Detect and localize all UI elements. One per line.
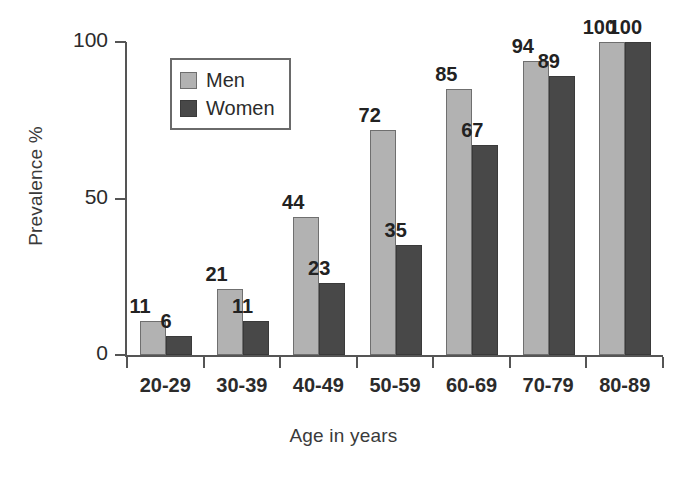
bar-value-label: 67 [449, 119, 495, 142]
y-tick [115, 198, 126, 200]
bar-group: 9489 [510, 42, 587, 355]
x-axis-line [125, 355, 663, 357]
legend-item: Women [180, 94, 275, 122]
bar-value-label: 72 [347, 104, 393, 127]
bar-value-label: 6 [143, 310, 189, 333]
bar-women [319, 283, 345, 355]
bar-women [549, 76, 575, 355]
legend-label: Men [206, 69, 245, 92]
bar-value-label: 21 [194, 263, 240, 286]
legend-swatch-icon [180, 100, 197, 117]
bar-women [396, 245, 422, 355]
x-tick [279, 357, 281, 368]
x-tick [203, 357, 205, 368]
chart-legend: MenWomen [170, 58, 291, 130]
bar-women [472, 145, 498, 355]
y-tick [115, 354, 126, 356]
legend-item: Men [180, 66, 275, 94]
bar-group: 8567 [433, 42, 510, 355]
bar-value-label: 100 [602, 16, 648, 39]
x-tick [356, 357, 358, 368]
x-tick [509, 357, 511, 368]
x-tick [585, 357, 587, 368]
x-axis-title: Age in years [0, 425, 687, 447]
x-tick [432, 357, 434, 368]
legend-swatch-icon [180, 72, 197, 89]
bar-group: 4423 [280, 42, 357, 355]
x-tick-label: 80-89 [577, 374, 673, 397]
bar-women [166, 336, 192, 355]
x-tick [126, 357, 128, 368]
x-tick [662, 357, 664, 368]
bar-value-label: 35 [373, 219, 419, 242]
bar-men [523, 61, 549, 355]
bar-value-label: 85 [423, 63, 469, 86]
bar-chart: Prevalence % 050100 11621114423723585679… [0, 0, 687, 483]
bar-value-label: 23 [296, 257, 342, 280]
bar-women [625, 42, 651, 355]
y-tick-label: 0 [96, 341, 108, 365]
bar-group: 7235 [357, 42, 434, 355]
bar-group: 100100 [586, 42, 663, 355]
bar-value-label: 11 [220, 295, 266, 318]
bar-men [599, 42, 625, 355]
bar-men [293, 217, 319, 355]
bar-women [243, 321, 269, 355]
bar-value-label: 44 [270, 191, 316, 214]
y-tick-label: 100 [73, 28, 108, 52]
y-tick-label: 50 [85, 185, 108, 209]
bar-value-label: 89 [526, 50, 572, 73]
y-tick [115, 41, 126, 43]
y-axis-title: Prevalence % [25, 76, 47, 296]
legend-label: Women [206, 97, 275, 120]
